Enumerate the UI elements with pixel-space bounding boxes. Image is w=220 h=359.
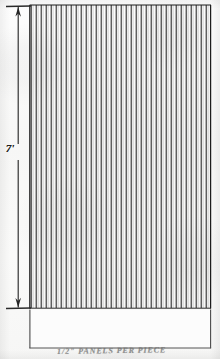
hatched-panel — [30, 5, 211, 309]
drawing-sheet: 7' 1/2" PANELS PER PIECE — [0, 0, 220, 359]
technical-drawing-canvas — [0, 0, 220, 359]
panel-hatch-fill-secondary — [30, 5, 211, 308]
dimension-tick-bottom — [6, 308, 31, 309]
dimension-tick-top — [6, 6, 31, 7]
dimension-label-height: 7' — [2, 142, 18, 154]
lower-blank-panel — [29, 310, 211, 349]
height-dimension — [6, 6, 31, 309]
lower-panel-fill — [30, 310, 211, 349]
